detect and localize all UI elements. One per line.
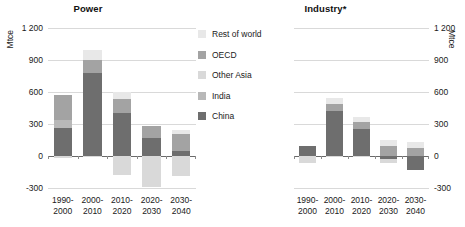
x-axis-tick <box>321 156 322 159</box>
bar-power-2000-2010[interactable] <box>83 28 101 188</box>
bar-segment-oecd <box>326 104 343 111</box>
legend-swatch <box>198 51 206 59</box>
bar-segment-neg-other-asia <box>54 156 72 158</box>
bar-industry-1990-2000[interactable] <box>299 28 316 188</box>
x-axis-label-2020-2030: 2020-2030 <box>375 195 402 216</box>
legend-label: Other Asia <box>212 71 252 80</box>
x-axis-label-2010-2020: 2010-2020 <box>107 195 137 216</box>
legend-item-china[interactable]: China <box>198 106 288 127</box>
y-axis-unit-left: Mtce <box>6 30 15 48</box>
y-axis-tick-label: 300 <box>0 120 43 129</box>
bar-industry-2000-2010[interactable] <box>326 28 343 188</box>
panel-title-power: Power <box>0 3 204 14</box>
legend-swatch <box>198 112 206 120</box>
bar-segment-oecd <box>113 99 131 113</box>
gridline <box>48 188 196 189</box>
bar-segment-rest-of-world <box>326 98 343 103</box>
bar-power-2010-2020[interactable] <box>113 28 131 188</box>
bar-segment-china <box>113 113 131 156</box>
chart-figure: Power Industry* Mtce Mtce Rest of worldO… <box>0 0 465 227</box>
bar-segment-rest-of-world <box>172 130 190 134</box>
bar-segment-neg-other-asia <box>326 156 343 157</box>
legend-item-india[interactable]: India <box>198 86 288 107</box>
bar-segment-oecd <box>54 95 72 120</box>
legend-item-oecd[interactable]: OECD <box>198 45 288 66</box>
legend-label: OECD <box>212 51 237 60</box>
bar-power-2020-2030[interactable] <box>142 28 160 188</box>
bar-segment-rest-of-world <box>353 117 370 123</box>
legend-item-rest-of-world[interactable]: Rest of world <box>198 24 288 45</box>
y-axis-tick-label: 600 <box>434 88 465 97</box>
x-axis-label-1990-2000: 1990-2000 <box>48 195 78 216</box>
y-axis-tick-label: -300 <box>434 184 465 193</box>
legend-swatch <box>198 30 206 38</box>
bar-segment-china <box>299 146 316 156</box>
y-axis-tick-label: 900 <box>0 56 43 65</box>
bar-segment-neg-other-asia <box>353 156 370 157</box>
bar-segment-rest-of-world <box>407 142 424 148</box>
y-axis-tick-label: 1 200 <box>0 24 43 33</box>
bar-segment-oecd <box>353 122 370 128</box>
bar-segment-oecd <box>172 134 190 151</box>
bar-segment-china <box>326 111 343 156</box>
gridline <box>294 188 429 189</box>
bar-segment-oecd <box>142 126 160 138</box>
x-axis-tick <box>294 156 295 159</box>
bar-segment-neg-other-asia <box>299 156 316 163</box>
x-axis-tick <box>166 156 167 159</box>
x-axis-tick <box>78 156 79 159</box>
y-axis-tick-label: 0 <box>0 152 43 161</box>
bar-segment-china <box>83 73 101 156</box>
bar-segment-oecd <box>407 148 424 156</box>
x-axis-tick <box>402 156 403 159</box>
x-axis-tick <box>107 156 108 159</box>
x-axis-label-2010-2020: 2010-2020 <box>348 195 375 216</box>
bar-industry-2010-2020[interactable] <box>353 28 370 188</box>
bar-power-2030-2040[interactable] <box>172 28 190 188</box>
bar-segment-china <box>353 129 370 156</box>
plot-area-power <box>48 28 196 188</box>
bar-segment-china <box>54 128 72 156</box>
y-axis-tick-label: -300 <box>0 184 43 193</box>
bar-industry-2020-2030[interactable] <box>380 28 397 188</box>
bar-power-1990-2000[interactable] <box>54 28 72 188</box>
bar-segment-oecd <box>83 60 101 73</box>
x-axis-label-2000-2010: 2000-2010 <box>321 195 348 216</box>
x-axis-tick <box>48 156 49 159</box>
y-axis-tick-label: 600 <box>0 88 43 97</box>
y-axis-tick-label: 300 <box>434 120 465 129</box>
plot-area-industry <box>294 28 429 188</box>
x-axis-tick <box>428 156 429 159</box>
legend-label: India <box>212 92 230 101</box>
y-axis-tick-label: 0 <box>434 152 465 161</box>
bar-segment-neg-other-asia <box>142 156 160 187</box>
x-axis-tick <box>195 156 196 159</box>
x-axis-label-1990-2000: 1990-2000 <box>294 195 321 216</box>
bar-segment-rest-of-world <box>113 92 131 99</box>
x-axis-tick <box>137 156 138 159</box>
y-axis-tick-label: 900 <box>434 56 465 65</box>
chart-legend: Rest of worldOECDOther AsiaIndiaChina <box>198 24 288 127</box>
bar-segment-rest-of-world <box>83 50 101 60</box>
x-axis-tick <box>375 156 376 159</box>
bar-segment-neg-other-asia <box>83 156 101 157</box>
bar-segment-china <box>142 138 160 156</box>
bar-segment-neg-other-asia <box>380 159 397 163</box>
bar-industry-2030-2040[interactable] <box>407 28 424 188</box>
x-axis-label-2020-2030: 2020-2030 <box>137 195 167 216</box>
legend-label: Rest of world <box>212 30 262 39</box>
legend-label: China <box>212 112 234 121</box>
x-axis-tick <box>348 156 349 159</box>
legend-item-other-asia[interactable]: Other Asia <box>198 65 288 86</box>
x-axis-label-2000-2010: 2000-2010 <box>78 195 108 216</box>
panel-title-industry: Industry* <box>209 3 442 14</box>
legend-swatch <box>198 92 206 100</box>
y-axis-tick-label: 1 200 <box>434 24 465 33</box>
bar-segment-india <box>54 120 72 128</box>
bar-segment-neg-other-asia <box>172 156 190 176</box>
bar-segment-oecd <box>380 146 397 156</box>
legend-swatch <box>198 71 206 79</box>
x-axis-label-2030-2040: 2030-2040 <box>402 195 429 216</box>
x-axis-label-2030-2040: 2030-2040 <box>166 195 196 216</box>
bar-segment-neg-china <box>407 156 424 170</box>
